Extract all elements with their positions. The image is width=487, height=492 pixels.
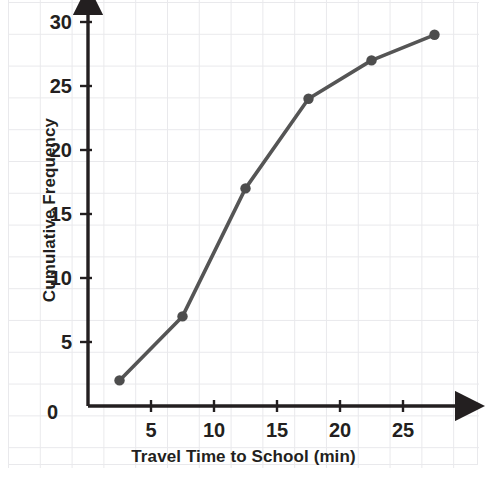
x-tick-label-10: 10 <box>203 420 225 440</box>
y-axis-title: Cumulative Frequency <box>40 85 60 335</box>
chart-figure: 5 10 15 20 25 30 5 10 15 20 25 0 Travel … <box>0 0 487 492</box>
x-tick-label-15: 15 <box>266 420 288 440</box>
y-tick-label-5: 5 <box>48 332 72 352</box>
data-point <box>177 311 187 321</box>
data-point <box>240 183 250 193</box>
cumulative-frequency-line <box>120 35 435 381</box>
data-point-markers <box>114 30 439 386</box>
x-tick-label-25: 25 <box>392 420 414 440</box>
y-tick-label-30: 30 <box>48 12 72 32</box>
x-axis-title: Travel Time to School (min) <box>0 447 487 467</box>
origin-label: 0 <box>47 402 58 422</box>
data-point <box>114 375 124 385</box>
data-point <box>429 30 439 40</box>
data-point <box>366 55 376 65</box>
x-tick-label-5: 5 <box>145 420 156 440</box>
y-axis-ticks <box>80 22 92 342</box>
x-tick-label-20: 20 <box>329 420 351 440</box>
cumulative-frequency-plot <box>0 0 487 492</box>
data-point <box>303 94 313 104</box>
